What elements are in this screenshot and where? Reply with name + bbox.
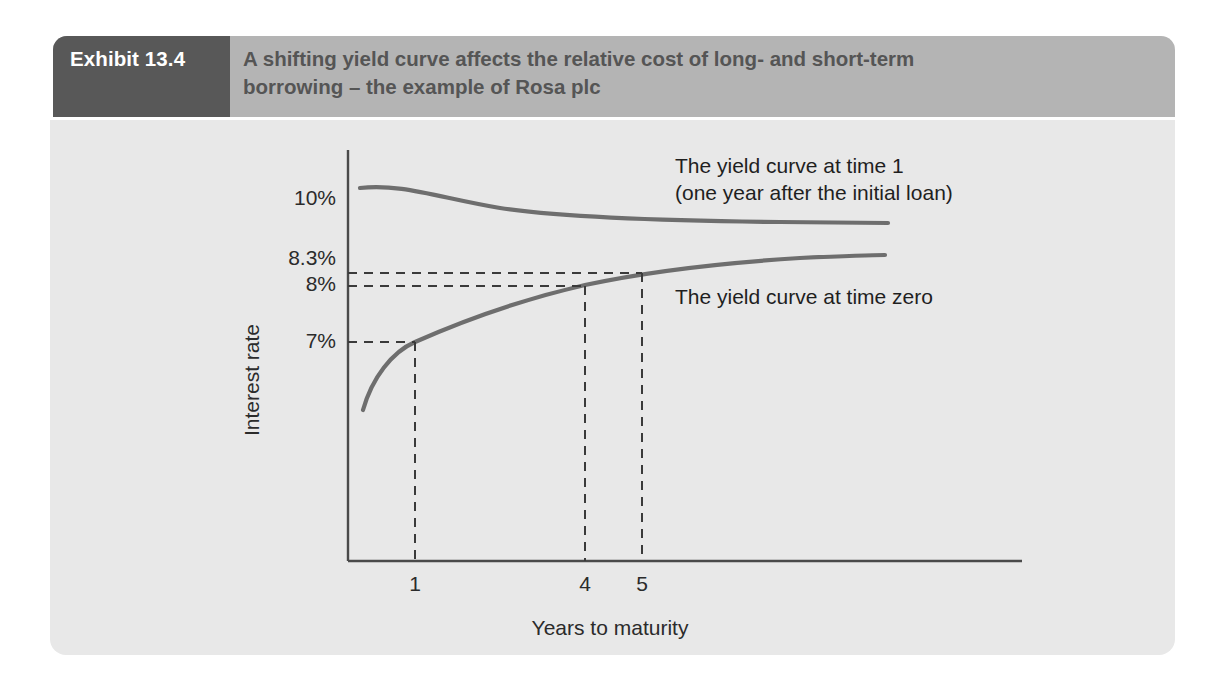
exhibit-title-line-1: A shifting yield curve affects the relat… xyxy=(243,45,1123,73)
exhibit-title-line-2: borrowing – the example of Rosa plc xyxy=(243,73,1123,101)
exhibit-tag: Exhibit 13.4 xyxy=(53,36,230,117)
exhibit-tag-label: Exhibit 13.4 xyxy=(70,47,185,71)
exhibit-body-panel xyxy=(50,120,1175,655)
exhibit-figure: Exhibit 13.4 A shifting yield curve affe… xyxy=(0,0,1223,695)
exhibit-title: A shifting yield curve affects the relat… xyxy=(243,45,1123,101)
